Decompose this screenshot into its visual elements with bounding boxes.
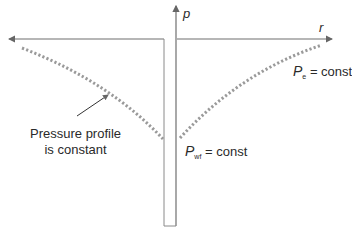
profile-note: Pressure profile is constant [30,126,121,158]
wellbore [164,39,176,226]
r-axis-label: r [319,20,323,35]
wellbore-pressure-label: Pwf = const [185,143,247,160]
profile-note-line1: Pressure profile [30,126,121,142]
profile-note-line2: is constant [30,142,121,158]
pressure-profile-diagram [0,0,352,232]
right-pressure-profile [180,45,322,138]
note-pointer-arrow [77,95,108,116]
outer-boundary-label: Pe = const [293,63,352,80]
p-axis-label: p [183,6,190,21]
